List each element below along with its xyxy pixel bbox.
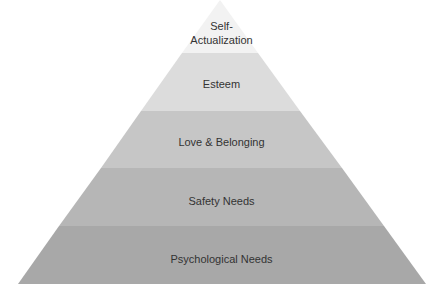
label-self-actualization-line2: Actualization: [0, 33, 443, 47]
label-self-actualization-line1: Self-: [0, 19, 443, 33]
label-love-belonging: Love & Belonging: [0, 135, 443, 149]
label-safety-needs: Safety Needs: [0, 194, 443, 208]
label-psychological-needs: Psychological Needs: [0, 252, 443, 266]
label-esteem: Esteem: [0, 77, 443, 91]
